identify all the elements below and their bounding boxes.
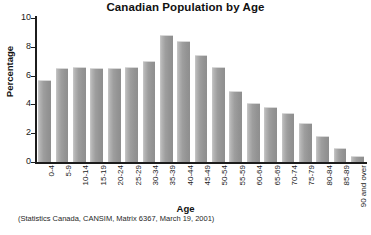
bar-slot: [349, 18, 366, 162]
plot-area: [36, 18, 366, 162]
bar[interactable]: [264, 107, 277, 162]
bar[interactable]: [351, 156, 364, 162]
y-tick-mark: [31, 162, 35, 163]
bars-layer: [36, 18, 366, 162]
x-label-slot: 85-89: [331, 165, 348, 203]
bar-slot: [123, 18, 140, 162]
bar-slot: [53, 18, 70, 162]
x-axis-tick-labels: 0-45-910-1415-1920-2425-2930-3435-3940-4…: [36, 165, 366, 203]
y-tick-label: 10: [3, 13, 31, 22]
x-label-slot: 50-54: [210, 165, 227, 203]
x-tick-label: 90 and over: [360, 165, 368, 207]
x-label-slot: 55-59: [227, 165, 244, 203]
bar-slot: [158, 18, 175, 162]
bar-slot: [331, 18, 348, 162]
x-axis-title: Age: [0, 203, 371, 214]
x-label-slot: 70-74: [279, 165, 296, 203]
y-axis-ticks: 0246810: [0, 0, 31, 235]
bar[interactable]: [90, 68, 103, 162]
x-label-slot: 40-44: [175, 165, 192, 203]
bar-slot: [227, 18, 244, 162]
bar-slot: [297, 18, 314, 162]
x-label-slot: 15-19: [88, 165, 105, 203]
bar-slot: [210, 18, 227, 162]
x-label-slot: 65-69: [262, 165, 279, 203]
x-label-slot: 90 and over: [349, 165, 366, 203]
bar[interactable]: [73, 67, 86, 162]
x-label-slot: 0-4: [36, 165, 53, 203]
y-tick-mark: [31, 47, 35, 48]
bar[interactable]: [56, 68, 69, 162]
bar[interactable]: [247, 103, 260, 162]
source-note: (Statistics Canada, CANSIM, Matrix 6367,…: [18, 214, 214, 223]
y-tick-mark: [31, 104, 35, 105]
x-axis-line: [35, 162, 367, 164]
bar[interactable]: [143, 61, 156, 162]
x-label-slot: 75-79: [297, 165, 314, 203]
bar-slot: [106, 18, 123, 162]
bar[interactable]: [38, 80, 51, 162]
y-axis-title: Percentage: [4, 37, 15, 107]
y-tick-mark: [31, 18, 35, 19]
x-label-slot: 35-39: [158, 165, 175, 203]
bar-slot: [314, 18, 331, 162]
bar[interactable]: [177, 41, 190, 162]
y-tick-mark: [31, 76, 35, 77]
bar-slot: [192, 18, 209, 162]
bar[interactable]: [108, 68, 121, 162]
bar[interactable]: [316, 136, 329, 162]
y-tick-label: 2: [3, 128, 31, 137]
population-bar-chart: Canadian Population by Age 0246810 Perce…: [0, 0, 371, 235]
x-label-slot: 10-14: [71, 165, 88, 203]
bar-slot: [140, 18, 157, 162]
bar-slot: [175, 18, 192, 162]
bar-slot: [88, 18, 105, 162]
bar[interactable]: [125, 67, 138, 162]
x-label-slot: 45-49: [192, 165, 209, 203]
bar-slot: [245, 18, 262, 162]
bar[interactable]: [160, 35, 173, 162]
x-label-slot: 30-34: [140, 165, 157, 203]
bar[interactable]: [334, 148, 347, 162]
bar[interactable]: [212, 67, 225, 162]
bar-slot: [262, 18, 279, 162]
bar-slot: [36, 18, 53, 162]
chart-title: Canadian Population by Age: [0, 1, 371, 13]
x-label-slot: 25-29: [123, 165, 140, 203]
bar[interactable]: [195, 55, 208, 162]
y-tick-label: 0: [3, 157, 31, 166]
x-label-slot: 80-84: [314, 165, 331, 203]
bar[interactable]: [229, 91, 242, 162]
x-label-slot: 5-9: [53, 165, 70, 203]
bar[interactable]: [282, 113, 295, 162]
x-label-slot: 60-64: [245, 165, 262, 203]
bar-slot: [71, 18, 88, 162]
y-tick-mark: [31, 133, 35, 134]
bar[interactable]: [299, 123, 312, 162]
bar-slot: [279, 18, 296, 162]
x-label-slot: 20-24: [106, 165, 123, 203]
